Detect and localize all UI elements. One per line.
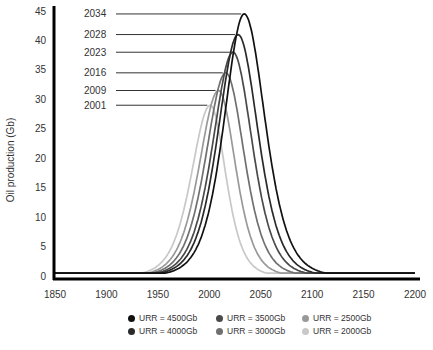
legend-dot-icon <box>128 328 135 335</box>
y-tick-label: 20 <box>35 153 47 164</box>
legend-item: URR = 3000Gb <box>216 326 302 336</box>
legend-item: URR = 3500Gb <box>216 313 302 323</box>
x-tick-label: 2100 <box>301 289 324 300</box>
legend-label: URR = 2000Gb <box>313 326 371 336</box>
curve-2000gb <box>55 105 415 273</box>
peak-year-label: 2001 <box>84 100 107 111</box>
curve-4000gb <box>55 35 415 274</box>
peak-year-label: 2034 <box>84 8 107 19</box>
y-tick-label: 25 <box>35 123 47 134</box>
legend-dot-icon <box>128 315 135 322</box>
legend-dot-icon <box>302 328 309 335</box>
x-tick-label: 2200 <box>404 289 427 300</box>
curve-3000gb <box>55 73 415 273</box>
legend-item: URR = 2500Gb <box>302 313 392 323</box>
x-tick-label: 2000 <box>198 289 221 300</box>
y-tick-label: 0 <box>40 271 46 282</box>
x-tick-label: 1850 <box>44 289 67 300</box>
peak-annotations: 203420282023201620092001 <box>84 8 241 110</box>
oil-production-chart: Oil production (Gb) 051015202530354045 1… <box>0 0 433 350</box>
y-tick-label: 45 <box>35 6 47 17</box>
x-tick-label: 1900 <box>95 289 118 300</box>
legend-dot-icon <box>216 315 223 322</box>
peak-year-label: 2016 <box>84 67 107 78</box>
y-tick-label: 5 <box>40 241 46 252</box>
peak-year-label: 2028 <box>84 29 107 40</box>
y-tick-label: 10 <box>35 212 47 223</box>
y-axis-label: Oil production (Gb) <box>5 118 16 202</box>
chart-legend: URR = 4500GbURR = 3500GbURR = 2500GbURR … <box>128 313 392 336</box>
legend-label: URR = 4000Gb <box>139 326 197 336</box>
legend-label: URR = 3000Gb <box>227 326 285 336</box>
legend-dot-icon <box>216 328 223 335</box>
legend-label: URR = 2500Gb <box>313 313 371 323</box>
legend-item: URR = 4000Gb <box>128 326 216 336</box>
y-tick-label: 15 <box>35 182 47 193</box>
legend-item: URR = 2000Gb <box>302 326 392 336</box>
curve-2500gb <box>55 91 415 274</box>
peak-year-label: 2023 <box>84 47 107 58</box>
y-tick-label: 35 <box>35 64 47 75</box>
y-tick-label: 30 <box>35 94 47 105</box>
y-axis-ticks: 051015202530354045 <box>35 6 47 282</box>
y-tick-label: 40 <box>35 35 47 46</box>
peak-year-label: 2009 <box>84 85 107 96</box>
x-tick-label: 2150 <box>352 289 375 300</box>
legend-label: URR = 4500Gb <box>139 313 197 323</box>
x-tick-label: 1950 <box>147 289 170 300</box>
x-tick-label: 2050 <box>250 289 273 300</box>
legend-dot-icon <box>302 315 309 322</box>
production-curves <box>55 14 415 273</box>
x-axis-ticks: 18501900195020002050210021502200 <box>44 289 427 300</box>
legend-label: URR = 3500Gb <box>227 313 285 323</box>
legend-item: URR = 4500Gb <box>128 313 216 323</box>
